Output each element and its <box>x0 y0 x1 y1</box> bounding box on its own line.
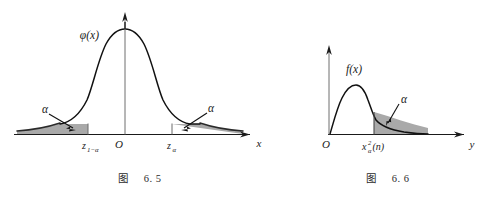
figures-canvas: φ(x) α α O x z 1−α z α <box>0 0 486 202</box>
caption-1-number: 6. 5 <box>144 173 162 184</box>
y-axis-label-fig2: y <box>469 138 475 150</box>
figure-6-5-caption: 图 6. 5 <box>118 170 162 185</box>
chisq-critical-subscript: α <box>368 147 372 154</box>
caption-2-prefix: 图 <box>366 173 377 184</box>
right-critical-subscript: α <box>173 146 177 153</box>
right-critical-value-label: z α <box>166 140 177 153</box>
right-alpha-label: α <box>208 102 215 114</box>
left-alpha-label: α <box>42 103 49 115</box>
origin-label-fig2: O <box>322 138 330 150</box>
figure-page: φ(x) α α O x z 1−α z α <box>0 0 486 202</box>
right-critical-base: z <box>166 140 171 151</box>
origin-label-fig1: O <box>115 138 123 150</box>
caption-1-prefix: 图 <box>118 173 129 184</box>
figure-6-5-group: φ(x) α α O x z 1−α z α <box>14 12 262 153</box>
figure-6-6-group: f(x) α O y x 2 α (n) <box>322 45 475 154</box>
caption-2-number: 6. 6 <box>392 173 410 184</box>
phi-curve-label: φ(x) <box>80 29 99 42</box>
chisq-critical-superscript: 2 <box>368 139 372 146</box>
x-axis-label-fig1: x <box>256 137 262 149</box>
left-critical-value-label: z 1−α <box>81 140 99 153</box>
normal-density-curve <box>60 29 200 124</box>
chisq-critical-argument: (n) <box>373 141 385 153</box>
left-critical-subscript: 1−α <box>87 146 99 153</box>
left-critical-base: z <box>81 140 86 151</box>
figure-6-6-caption: 图 6. 6 <box>366 170 410 185</box>
chisq-critical-base: x <box>361 141 367 152</box>
chisq-alpha-label: α <box>401 93 408 105</box>
chisq-critical-value-label: x 2 α (n) <box>361 139 385 154</box>
f-curve-label: f(x) <box>346 63 362 76</box>
